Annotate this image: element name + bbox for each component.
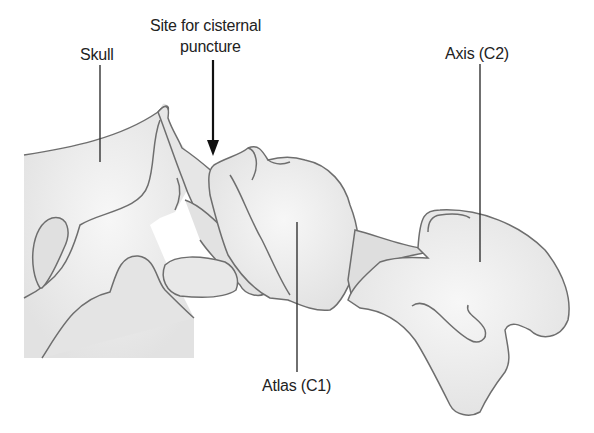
puncture-label-line1: Site for cisternal <box>150 16 261 35</box>
puncture-arrow-icon <box>207 60 219 156</box>
axis-label: Axis (C2) <box>445 44 509 63</box>
anatomy-diagram <box>0 0 594 433</box>
puncture-label-line2: puncture <box>180 37 241 56</box>
atlas-label: Atlas (C1) <box>262 376 331 395</box>
skull-label: Skull <box>80 45 114 64</box>
